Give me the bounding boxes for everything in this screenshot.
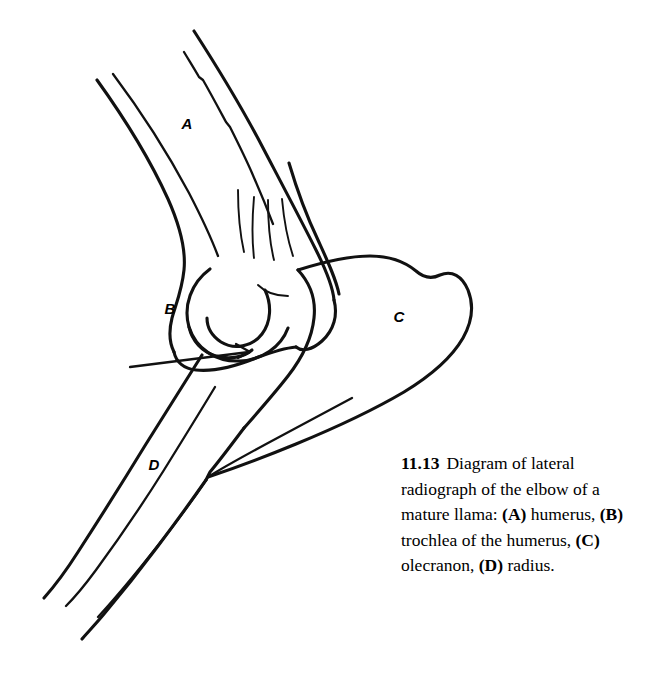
- figure-caption: 11.13Diagram of lateral radiograph of th…: [401, 451, 651, 579]
- trochlea-inner-arc: [207, 290, 270, 346]
- radius-cranial-border-outer: [44, 355, 202, 598]
- olecranon-outline: [208, 256, 471, 477]
- legend-sep-c: ,: [470, 555, 474, 575]
- legend-sep-d: .: [550, 555, 554, 575]
- figure-number: 11.13: [401, 453, 439, 473]
- humerus-caudal-border-inner: [184, 52, 273, 224]
- legend-key-a: (A): [502, 504, 526, 524]
- humerus-trabecular-line-4: [282, 199, 293, 256]
- legend-term-c: olecranon: [401, 555, 470, 575]
- humerus-trabecular-line-2: [253, 197, 255, 258]
- humerus-caudal-border-outer: [194, 31, 334, 300]
- legend-key-c: (C): [575, 530, 599, 550]
- legend-term-b: trochlea of the humerus: [401, 530, 567, 550]
- legend-term-d: radius: [507, 555, 550, 575]
- legend-sep-a: ,: [591, 504, 595, 524]
- figure-page: A B C D 11.13Diagram of lateral radiogra…: [0, 0, 670, 674]
- legend-term-a: humerus: [531, 504, 591, 524]
- diagram-label-b: B: [165, 300, 176, 317]
- legend-key-d: (D): [479, 555, 503, 575]
- diagram-label-a: A: [181, 115, 193, 132]
- diagram-label-c: C: [394, 308, 406, 325]
- humerus-cranial-border-inner: [113, 74, 218, 256]
- legend-entry-a: (A) humerus,: [502, 504, 595, 524]
- diagram-label-d: D: [149, 456, 160, 473]
- legend-sep-b: ,: [567, 530, 571, 550]
- radius-caudal-border-inner: [208, 398, 352, 477]
- humerus-trabecular-line-3: [268, 200, 274, 260]
- humerus-epicondylar-crest: [289, 163, 339, 294]
- legend-key-b: (B): [600, 504, 623, 524]
- legend-entry-d: (D) radius.: [479, 555, 555, 575]
- humerus-trabecular-line-1: [238, 190, 244, 252]
- humerus-supracondylar-line: [258, 285, 288, 296]
